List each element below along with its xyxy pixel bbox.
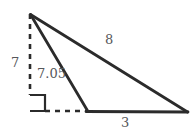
geometry-diagram: 7 7.05 8 3 xyxy=(0,0,195,133)
inner-slant-line xyxy=(31,15,89,112)
label-inner-hypotenuse: 7.05 xyxy=(37,67,66,80)
outer-slant-line xyxy=(31,15,188,113)
right-angle-marker-icon xyxy=(30,95,45,111)
label-height: 7 xyxy=(11,56,19,69)
label-base: 3 xyxy=(121,116,129,129)
label-outer-hypotenuse: 8 xyxy=(105,33,113,46)
base-solid-line xyxy=(86,112,188,113)
triangle-figure xyxy=(0,0,195,133)
